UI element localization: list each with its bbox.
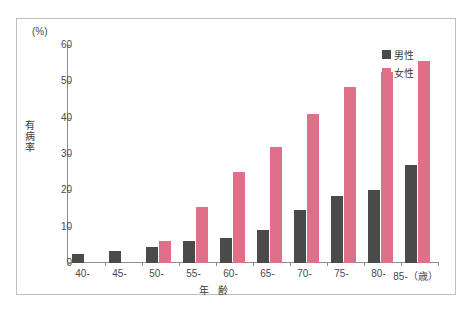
legend-swatch-icon [382, 50, 391, 59]
bar-female [418, 61, 430, 263]
bar-female [307, 114, 319, 263]
bar-male [72, 254, 84, 263]
bar-male [368, 190, 380, 263]
bar-female [233, 172, 245, 263]
bar-female [270, 147, 282, 263]
y-axis-tick-label: 50 [36, 75, 72, 87]
x-axis-tick-mark [179, 263, 180, 266]
x-axis-tick-mark [438, 263, 439, 266]
bar-female [344, 87, 356, 263]
x-axis-tick-mark [216, 263, 217, 266]
x-axis-tick-label: 85-（歳） [392, 268, 440, 283]
bar-female [159, 241, 171, 263]
x-axis-title: 年 齢 [175, 282, 255, 297]
bar-group [220, 45, 246, 263]
legend-swatch-icon [382, 68, 391, 77]
x-axis-tick-mark [290, 263, 291, 266]
bar-male [183, 241, 195, 263]
bar-female [381, 72, 393, 263]
y-axis-title-char: 有 [24, 120, 36, 131]
bar-male [109, 251, 121, 263]
y-axis-title-char: 率 [24, 142, 36, 153]
bar-male [331, 196, 343, 263]
x-axis-tick-mark [327, 263, 328, 266]
bar-group [183, 45, 209, 263]
x-axis-tick-mark [364, 263, 365, 266]
y-axis-title-char: 病 [24, 131, 36, 142]
x-axis-tick-mark [401, 263, 402, 266]
bar-male [220, 238, 232, 263]
x-axis-tick-mark [142, 263, 143, 266]
bar-group [146, 45, 172, 263]
y-axis-title: 有病率 [24, 120, 36, 153]
y-axis-unit-label: (%) [32, 26, 48, 37]
bar-male [257, 230, 269, 263]
legend-item-female: 女性 [382, 65, 414, 80]
y-axis-tick-label: 40 [36, 112, 72, 124]
bar-group [294, 45, 320, 263]
chart-legend: 男性女性 [382, 47, 414, 83]
bar-group [257, 45, 283, 263]
legend-item-male: 男性 [382, 47, 414, 62]
y-axis-tick-label: 10 [36, 221, 72, 233]
x-axis-tick-mark [68, 263, 69, 266]
bar-male [146, 247, 158, 263]
legend-label: 男性 [394, 47, 414, 62]
bar-group [331, 45, 357, 263]
y-axis-tick-label: 30 [36, 148, 72, 160]
x-axis-tick-mark [105, 263, 106, 266]
bar-group [109, 45, 135, 263]
x-axis-tick-mark [253, 263, 254, 266]
bar-male [405, 165, 417, 263]
bar-male [294, 210, 306, 263]
y-axis-tick-label: 60 [36, 39, 72, 51]
y-axis-tick-label: 20 [36, 184, 72, 196]
bar-group [72, 45, 98, 263]
bar-female [196, 207, 208, 263]
legend-label: 女性 [394, 65, 414, 80]
